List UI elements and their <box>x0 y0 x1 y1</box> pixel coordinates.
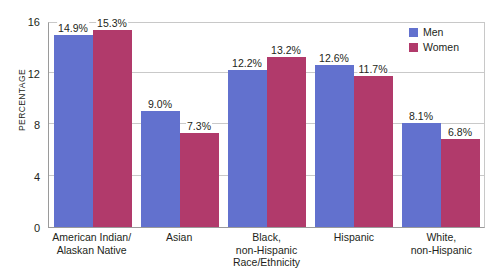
x-tick-label: Asian <box>135 231 222 256</box>
bar-value-label: 7.3% <box>186 120 212 132</box>
x-tick-label: Hispanic <box>310 231 397 256</box>
bar-women[interactable] <box>93 30 132 227</box>
x-axis-tick-labels: American Indian/Alaskan NativeAsianBlack… <box>48 231 485 256</box>
x-tick-label-line: Alaskan Native <box>48 244 135 257</box>
legend-label: Women <box>423 41 459 53</box>
x-axis-title: Race/Ethnicity <box>48 256 485 268</box>
x-tick-label-line: Asian <box>135 231 222 244</box>
bar-value-label: 11.7% <box>358 63 389 75</box>
bar-wrapper: 9.0% <box>141 23 180 227</box>
bar-wrapper: 14.9% <box>54 23 93 227</box>
bar-wrapper: 12.6% <box>315 23 354 227</box>
chart-legend: MenWomen <box>409 26 459 53</box>
bar-women[interactable] <box>354 76 393 227</box>
bar-men[interactable] <box>402 123 441 227</box>
legend-label: Men <box>423 26 443 38</box>
x-tick-label: American Indian/Alaskan Native <box>48 231 135 256</box>
bar-women[interactable] <box>441 139 480 227</box>
y-tick-label: 4 <box>34 171 40 183</box>
bar-group: 12.6%11.7% <box>315 23 393 227</box>
bar-value-label: 8.1% <box>408 110 434 122</box>
y-tick-label: 16 <box>28 16 40 28</box>
bar-value-label: 12.2% <box>231 57 263 69</box>
bar-value-label: 15.3% <box>96 17 128 29</box>
legend-swatch-icon <box>409 43 418 52</box>
bar-group: 12.2%13.2% <box>228 23 306 227</box>
bar-group: 9.0%7.3% <box>141 23 219 227</box>
bar-value-label: 13.2% <box>270 44 302 56</box>
x-tick-label: Black,non-Hispanic <box>223 231 310 256</box>
bar-wrapper: 8.1% <box>402 23 441 227</box>
bar-groups: 14.9%15.3%9.0%7.3%12.2%13.2%12.6%11.7%8.… <box>49 23 484 227</box>
bar-group: 14.9%15.3% <box>54 23 132 227</box>
y-tick-label: 12 <box>28 68 40 80</box>
legend-item-men[interactable]: Men <box>409 26 459 38</box>
bar-men[interactable] <box>54 35 93 227</box>
y-axis-tick-labels: 0481216 <box>0 0 44 278</box>
x-tick-label-line: White, <box>398 231 485 244</box>
bar-group: 8.1%6.8% <box>402 23 480 227</box>
bar-wrapper: 15.3% <box>93 23 132 227</box>
bar-men[interactable] <box>141 111 180 227</box>
bar-wrapper: 12.2% <box>228 23 267 227</box>
bar-wrapper: 11.7% <box>354 23 393 227</box>
y-tick-label: 0 <box>34 222 40 234</box>
y-tick-label: 8 <box>34 119 40 131</box>
bar-value-label: 6.8% <box>447 126 473 138</box>
x-tick-label: White,non-Hispanic <box>398 231 485 256</box>
bar-chart: PERCENTAGE 0481216 14.9%15.3%9.0%7.3%12.… <box>0 0 497 278</box>
x-tick-label-line: American Indian/ <box>48 231 135 244</box>
bar-value-label: 14.9% <box>57 22 89 34</box>
bar-wrapper: 13.2% <box>267 23 306 227</box>
bar-men[interactable] <box>228 70 267 227</box>
bar-wrapper: 7.3% <box>180 23 219 227</box>
bar-men[interactable] <box>315 65 354 227</box>
bar-value-label: 12.6% <box>318 52 350 64</box>
legend-item-women[interactable]: Women <box>409 41 459 53</box>
legend-swatch-icon <box>409 28 418 37</box>
bar-wrapper: 6.8% <box>441 23 480 227</box>
bar-value-label: 9.0% <box>147 98 173 110</box>
x-tick-label-line: Hispanic <box>310 231 397 244</box>
bar-women[interactable] <box>267 57 306 227</box>
bar-women[interactable] <box>180 133 219 227</box>
x-tick-label-line: non-Hispanic <box>223 244 310 257</box>
x-tick-label-line: Black, <box>223 231 310 244</box>
x-tick-label-line: non-Hispanic <box>398 244 485 257</box>
